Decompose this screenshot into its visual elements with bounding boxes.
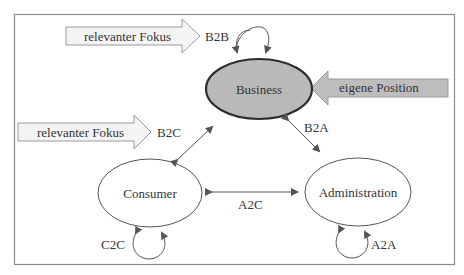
- b2b-self-loop: [237, 27, 269, 52]
- administration-label: Administration: [319, 186, 398, 199]
- b2c-edge: [177, 127, 212, 160]
- a2a-self-loop: [336, 232, 368, 258]
- c2c-label: C2C: [101, 238, 125, 251]
- c2c-self-loop: [133, 233, 165, 259]
- b2b-label: B2B: [205, 30, 229, 43]
- consumer-label: Consumer: [123, 187, 176, 200]
- a2c-label: A2C: [238, 198, 263, 211]
- business-label: Business: [236, 83, 282, 96]
- a2a-label: A2A: [371, 238, 396, 251]
- focus-left-label: relevanter Fokus: [37, 126, 124, 139]
- own-position-label: eigene Position: [339, 81, 419, 94]
- b2a-label: B2A: [304, 121, 329, 134]
- focus-top-label: relevanter Fokus: [84, 30, 171, 43]
- b2c-label: B2C: [157, 126, 181, 139]
